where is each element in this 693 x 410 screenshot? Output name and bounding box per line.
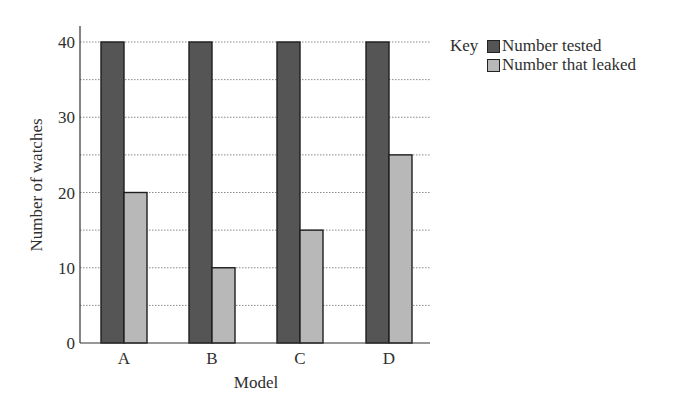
y-tick-label: 30 [58,108,75,127]
bar-c-leaked [300,230,323,343]
legend-swatch-dark-icon [487,40,500,53]
legend-item-number-tested: Number tested [487,36,602,56]
y-tick-label: 40 [58,33,75,52]
bar-a-leaked [124,193,147,344]
x-tick-label: D [383,349,395,368]
legend-swatch-light-icon [487,59,500,72]
y-tick-label: 20 [58,184,75,203]
legend-title: Key [450,36,478,56]
x-tick-label: C [294,349,305,368]
y-axis-label: Number of watches [27,118,46,251]
bar-b-tested [189,42,212,343]
x-axis-label: Model [234,373,279,392]
bar-d-tested [366,42,389,343]
bar-a-tested [101,42,124,343]
legend-item-number-leaked: Number that leaked [487,55,636,75]
x-tick-label: B [206,349,217,368]
bar-d-leaked [389,155,412,343]
legend-label: Number tested [502,36,602,56]
y-tick-label: 10 [58,259,75,278]
legend-label: Number that leaked [502,55,636,75]
bar-c-tested [277,42,300,343]
y-tick-label: 0 [67,334,76,353]
bar-b-leaked [212,268,235,343]
y-tick-labels: 010203040 [58,33,75,353]
x-tick-label: A [118,349,131,368]
x-tick-labels: ABCD [118,349,395,368]
bars [101,42,412,343]
